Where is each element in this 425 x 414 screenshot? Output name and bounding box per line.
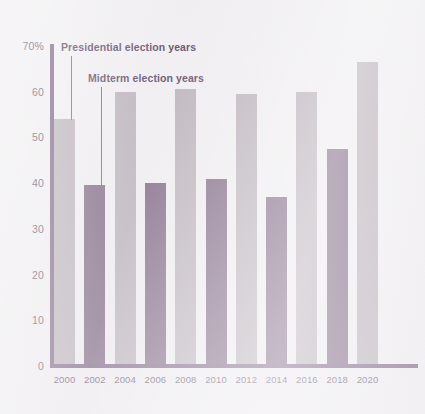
y-axis-tick-label-40: 40 (32, 177, 44, 189)
midterm-annotation-leader-line (101, 87, 102, 187)
bar-2016 (296, 92, 317, 366)
y-axis-labels: 010203040506070% (0, 0, 44, 414)
y-axis-tick-label-30: 30 (32, 223, 44, 235)
bar-2018 (327, 149, 348, 366)
y-axis-tick-label-70: 70% (22, 40, 44, 52)
presidential-annotation-leader-line (71, 56, 72, 120)
bar-2020 (357, 62, 378, 366)
bar-2006 (145, 183, 166, 366)
x-axis-tick-label-2014: 2014 (266, 374, 288, 385)
bar-2014 (266, 197, 287, 366)
x-axis-tick-label-2006: 2006 (145, 374, 167, 385)
y-axis-line (50, 44, 54, 368)
y-axis-tick-label-60: 60 (32, 86, 44, 98)
x-axis-line (50, 364, 418, 368)
x-axis-tick-label-2018: 2018 (326, 374, 348, 385)
bar-2004 (115, 92, 136, 366)
bar-2010 (206, 179, 227, 366)
midterm-annotation-label: Midterm election years (88, 72, 204, 84)
bar-2000 (54, 119, 75, 366)
y-axis-tick-label-10: 10 (32, 314, 44, 326)
y-axis-tick-label-0: 0 (38, 360, 44, 372)
bar-2012 (236, 94, 257, 366)
x-axis-tick-label-2010: 2010 (205, 374, 227, 385)
bar-2002 (84, 185, 105, 366)
y-axis-tick-label-50: 50 (32, 131, 44, 143)
x-axis-tick-label-2002: 2002 (84, 374, 106, 385)
presidential-annotation-label: Presidential election years (61, 41, 196, 53)
x-axis-tick-label-2004: 2004 (114, 374, 136, 385)
x-axis-tick-label-2000: 2000 (54, 374, 76, 385)
bar-2008 (175, 89, 196, 366)
x-axis-tick-label-2020: 2020 (357, 374, 379, 385)
x-axis-tick-label-2012: 2012 (236, 374, 258, 385)
bar-chart: 010203040506070% 20002002200420062008201… (0, 0, 425, 414)
y-axis-tick-label-20: 20 (32, 269, 44, 281)
x-axis-tick-label-2016: 2016 (296, 374, 318, 385)
x-axis-tick-label-2008: 2008 (175, 374, 197, 385)
